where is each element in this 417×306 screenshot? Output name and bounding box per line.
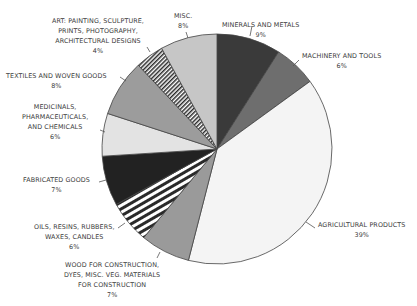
label-art: ART: PAINTING, SCULPTURE, PRINTS, PHOTOG… [52, 16, 144, 56]
label-pct: 7% [23, 185, 90, 195]
label-pct: 7% [64, 290, 160, 300]
label-oils: OILS, RESINS, RUBBERS, WAXES, CANDLES 6% [34, 222, 115, 252]
label-pct: 8% [6, 81, 107, 91]
label-wood: WOOD FOR CONSTRUCTION, DYES, MISC. VEG. … [64, 260, 160, 300]
label-name: ART: PAINTING, SCULPTURE, PRINTS, PHOTOG… [52, 16, 144, 46]
label-textiles: TEXTILES AND WOVEN GOODS 8% [6, 71, 107, 91]
leader-misc [186, 32, 188, 38]
label-name: AGRICULTURAL PRODUCTS [318, 220, 406, 230]
label-fabricated: FABRICATED GOODS 7% [23, 175, 90, 195]
label-name: OILS, RESINS, RUBBERS, WAXES, CANDLES [34, 222, 115, 242]
leader-oils [118, 223, 125, 228]
label-minerals: MINERALS AND METALS 9% [222, 20, 299, 40]
label-name: MINERALS AND METALS [222, 20, 299, 30]
label-name: WOOD FOR CONSTRUCTION, DYES, MISC. VEG. … [64, 260, 160, 290]
label-agricultural: AGRICULTURAL PRODUCTS 39% [318, 220, 406, 240]
pie-slices [102, 34, 332, 264]
label-pct: 6% [22, 132, 88, 142]
leader-wood [157, 252, 160, 258]
label-name: FABRICATED GOODS [23, 175, 90, 185]
leader-agricultural [306, 222, 315, 228]
label-medicinals: MEDICINALS, PHARMACEUTICALS, AND CHEMICA… [22, 102, 88, 142]
label-name: MISC. [174, 11, 192, 21]
leader-textiles [120, 77, 126, 81]
label-machinery: MACHINERY AND TOOLS 6% [302, 51, 381, 71]
label-pct: 6% [302, 61, 381, 71]
label-misc: MISC. 8% [174, 11, 192, 31]
leader-art [147, 47, 150, 52]
label-pct: 39% [318, 230, 406, 240]
label-pct: 8% [174, 21, 192, 31]
label-name: TEXTILES AND WOVEN GOODS [6, 71, 107, 81]
label-pct: 9% [222, 30, 299, 40]
label-pct: 6% [34, 242, 115, 252]
label-name: MEDICINALS, PHARMACEUTICALS, AND CHEMICA… [22, 102, 88, 132]
leader-fabricated [99, 180, 106, 182]
label-pct: 4% [52, 46, 144, 56]
label-name: MACHINERY AND TOOLS [302, 51, 381, 61]
